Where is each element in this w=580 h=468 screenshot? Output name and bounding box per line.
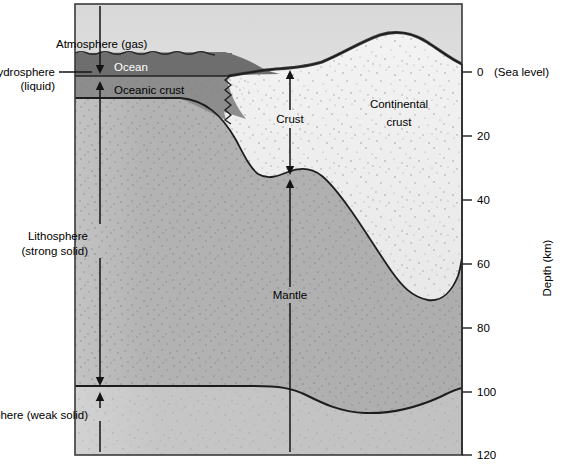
axis-label-sea-level: (Sea level) — [494, 66, 549, 78]
label-lithosphere-line1: Lithosphere — [28, 230, 88, 242]
figure-container: Atmosphere (gas) Hydrosphere (liquid) Oc… — [0, 0, 580, 468]
label-ocean: Ocean — [114, 61, 148, 73]
label-lithosphere-line2: (strong solid) — [22, 245, 89, 257]
axis-label-60: 60 — [477, 258, 490, 270]
label-mantle: Mantle — [273, 289, 308, 301]
axis-label-120: 120 — [477, 449, 496, 461]
label-atmosphere: Atmosphere (gas) — [56, 38, 148, 50]
geological-cross-section-diagram: Atmosphere (gas) Hydrosphere (liquid) Oc… — [0, 0, 580, 468]
label-hydrosphere-line2: (liquid) — [20, 80, 55, 92]
axis-label-0: 0 — [477, 66, 483, 78]
label-continental-crust-line1: Continental — [370, 98, 428, 110]
label-crust: Crust — [276, 113, 304, 125]
axis-label-40: 40 — [477, 194, 490, 206]
axis-label-80: 80 — [477, 322, 490, 334]
label-hydrosphere-line1: Hydrosphere — [0, 66, 55, 78]
depth-axis-title: Depth (km) — [541, 239, 553, 296]
axis-label-100: 100 — [477, 386, 496, 398]
depth-axis — [462, 64, 472, 455]
label-asthenosphere: Asthenosphere (weak solid) — [0, 409, 88, 421]
label-continental-crust-line2: crust — [387, 116, 413, 128]
label-oceanic-crust: Oceanic crust — [114, 84, 185, 96]
axis-label-20: 20 — [477, 130, 490, 142]
